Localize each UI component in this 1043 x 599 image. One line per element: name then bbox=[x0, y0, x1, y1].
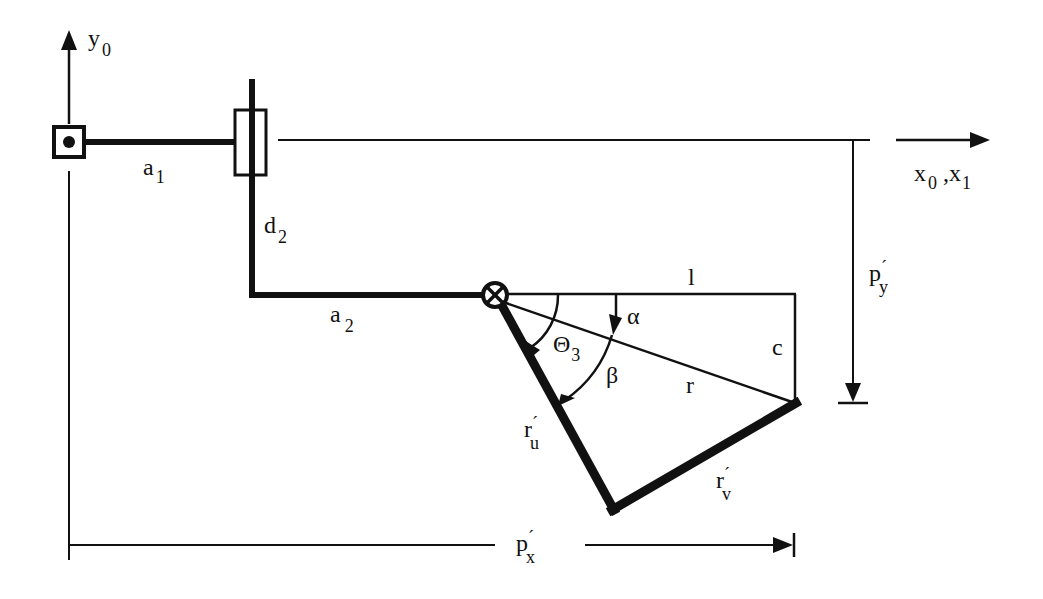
y0-axis bbox=[61, 30, 77, 560]
c-label: c bbox=[772, 334, 783, 360]
revolute-joint-3 bbox=[483, 283, 507, 307]
y0-arrow-icon bbox=[61, 30, 77, 50]
a2-label: a2 bbox=[330, 301, 354, 336]
px-label: p´x bbox=[516, 527, 535, 567]
d2-label: d2 bbox=[264, 212, 287, 247]
beta-label: β bbox=[606, 362, 618, 388]
rv-label: r´v bbox=[716, 464, 731, 504]
x0-x1-label: x0 ,x1 bbox=[914, 160, 971, 193]
theta3-label: Θ3 bbox=[553, 331, 580, 365]
kinematics-diagram: y0 a1 d2 x0 ,x1 a2 l c r r´u r´v Θ3 bbox=[0, 0, 1043, 599]
prismatic-joint-2 bbox=[235, 79, 266, 295]
py-label: p´y bbox=[869, 257, 888, 297]
px-arrow-icon bbox=[773, 537, 793, 553]
a1-label: a1 bbox=[143, 154, 165, 187]
joint-dot-icon bbox=[63, 136, 75, 148]
revolute-joint-1 bbox=[54, 127, 84, 157]
y0-label: y0 bbox=[88, 25, 111, 60]
ru-label: r´u bbox=[524, 413, 539, 453]
x-axis-arrow-icon bbox=[970, 132, 990, 148]
alpha-arrow-icon bbox=[609, 314, 622, 335]
px-dimension bbox=[69, 533, 794, 557]
l-label: l bbox=[688, 264, 695, 290]
r-label: r bbox=[686, 372, 694, 398]
alpha-label: α bbox=[627, 303, 640, 329]
py-arrow-icon bbox=[845, 383, 861, 402]
link-rv bbox=[612, 403, 796, 510]
py-dimension bbox=[838, 140, 868, 403]
